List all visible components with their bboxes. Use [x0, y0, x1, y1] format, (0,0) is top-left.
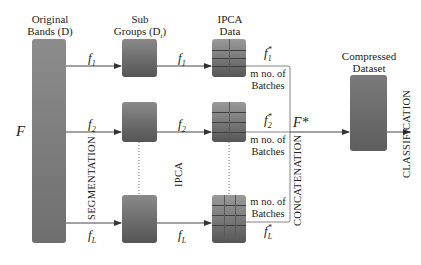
subgroup-block-1: [122, 39, 157, 77]
header-line: Compressed: [333, 50, 405, 62]
input-label-F: F: [16, 123, 25, 140]
out-label-f1-star: f*1: [264, 45, 272, 63]
stage-label-classification: CLASSIFICATION: [401, 90, 412, 178]
header-sub-groups: Sub Groups (Di): [108, 13, 172, 42]
out-label-fL-star: f*L: [264, 223, 272, 241]
header-ipca-data: IPCA Data: [198, 13, 262, 37]
seg-label-f2: f2: [88, 116, 96, 134]
seg-label-fL: fL: [88, 227, 96, 245]
seg-label-f1: f1: [88, 50, 96, 68]
stage-label-segmentation: SEGMENTATION: [86, 136, 97, 220]
subgroup-block-L: [122, 195, 157, 243]
header-compressed-dataset: Compressed Dataset: [333, 50, 405, 74]
ipca-label-fL: fL: [178, 227, 186, 245]
original-bands-block: [32, 39, 66, 243]
batch-label-L: m no. ofBatches: [246, 196, 290, 220]
header-original-bands: Original Bands (D): [18, 13, 82, 37]
header-line: Bands (D): [18, 25, 82, 37]
stage-label-concatenation: CONCATENATION: [292, 135, 303, 226]
batch-label-1: m no. ofBatches: [246, 68, 290, 92]
header-line: Sub: [108, 13, 172, 25]
header-line: Original: [18, 13, 82, 25]
header-line: IPCA: [198, 13, 262, 25]
header-line: Data: [198, 25, 262, 37]
batch-label-2: m no. ofBatches: [246, 134, 290, 158]
ipca-data-block-1: [212, 39, 246, 77]
ipca-label-f2: f2: [178, 116, 186, 134]
stage-label-ipca: IPCA: [173, 162, 184, 187]
out-label-f2-star: f*2: [264, 112, 272, 130]
ipca-data-block-2: [212, 102, 246, 142]
ipca-data-block-L: [212, 195, 246, 243]
subgroup-block-2: [122, 102, 157, 142]
output-label-F-star: F*: [293, 115, 309, 131]
compressed-dataset-block: [350, 75, 387, 151]
header-line: Dataset: [333, 62, 405, 74]
ipca-label-f1: f1: [178, 50, 186, 68]
